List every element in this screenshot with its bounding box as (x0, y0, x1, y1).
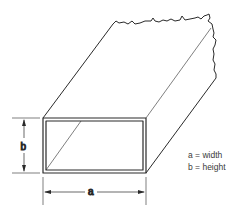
dimension-label-b: b (21, 141, 27, 152)
a-arrow-left-icon (44, 190, 51, 194)
dimension-a: a (43, 177, 146, 205)
tube-diagram: b a a = width b = height (0, 0, 239, 214)
legend-width: a = width (188, 150, 223, 160)
dimension-label-a: a (88, 186, 94, 197)
legend-height: b = height (188, 162, 226, 172)
b-arrow-down-icon (22, 165, 26, 172)
legend: a = width b = height (188, 150, 226, 172)
left-top-edge (43, 24, 113, 118)
front-inner-rect (46, 121, 143, 170)
jagged-right-edge (208, 14, 216, 78)
b-arrow-up-icon (22, 119, 26, 126)
dimension-b: b (12, 118, 40, 173)
jagged-top-edge (113, 14, 209, 24)
front-outer-rect (43, 118, 146, 173)
top-right-edge (146, 28, 211, 118)
inner-diagonal (46, 121, 81, 170)
a-arrow-right-icon (138, 190, 145, 194)
